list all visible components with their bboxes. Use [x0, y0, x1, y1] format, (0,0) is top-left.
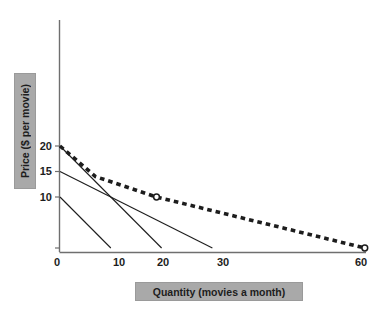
series-individual-demand-3	[60, 172, 212, 249]
y-tick-label-10: 10	[30, 191, 52, 203]
x-tick-label-0: 0	[46, 256, 68, 268]
series-market-demand	[60, 146, 365, 248]
x-tick-label-60: 60	[350, 256, 372, 268]
x-axis-title: Quantity (movies a month)	[135, 282, 303, 301]
x-tick-label-30: 30	[212, 256, 234, 268]
marker-open-circle	[362, 245, 368, 251]
marker-open-circle	[154, 194, 160, 200]
chart-figure: 20 15 10 0 10 20 30 60 Price ($ per movi…	[0, 0, 378, 313]
x-tick-label-20: 20	[152, 256, 174, 268]
y-axis-title: Price ($ per movie)	[14, 73, 36, 189]
x-tick-label-10: 10	[108, 256, 130, 268]
series-individual-demand-1	[60, 197, 111, 248]
